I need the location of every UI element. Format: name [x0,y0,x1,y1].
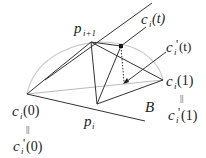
tangent-line-upper [45,3,152,80]
edge-pnext-pcur [91,42,97,104]
svg-text:c: c [166,39,173,55]
svg-text:(0): (0) [26,139,43,155]
edge-c0-pnext [27,42,91,94]
svg-text:c: c [166,73,173,89]
svg-text:c: c [13,138,20,154]
svg-text:(1): (1) [181,108,198,124]
svg-text:p: p [83,113,92,129]
svg-text:': ' [23,136,25,150]
label-cpi-1: c i ' (1) [168,105,198,125]
leader-cpi-t [126,52,166,82]
dotted-projection [121,47,124,82]
svg-text:': ' [176,37,178,51]
svg-text:(0): (0) [23,103,40,119]
svg-text:c: c [141,11,148,27]
svg-text:i: i [92,121,95,131]
leader-ci-t [121,27,146,46]
label-ci-t: c i (t) [141,11,166,29]
equals-1: || [180,93,184,103]
svg-text:i+1: i+1 [83,28,96,38]
label-ci-0: c i (0) [12,103,40,121]
svg-text:c: c [168,107,175,123]
label-ci-1: c i (1) [166,73,194,91]
svg-text:(t): (t) [152,11,166,27]
equals-0: || [26,124,30,134]
svg-text:p: p [73,20,82,36]
label-p-cur: p i [83,113,95,131]
label-p-next: p i+1 [73,20,96,38]
label-cpi-t: c i ' (t) [166,37,191,57]
svg-text:(t): (t) [179,39,191,54]
svg-text:': ' [178,105,180,119]
label-cpi-0: c i ' (0) [13,136,43,156]
svg-text:c: c [12,103,19,119]
edge-cit-pcur [97,46,121,104]
label-B: B [145,99,154,115]
svg-text:(1): (1) [177,73,194,89]
bezier-diagram: p i+1 c i (t) c i ' (t) c i (1) || c i '… [0,0,206,158]
